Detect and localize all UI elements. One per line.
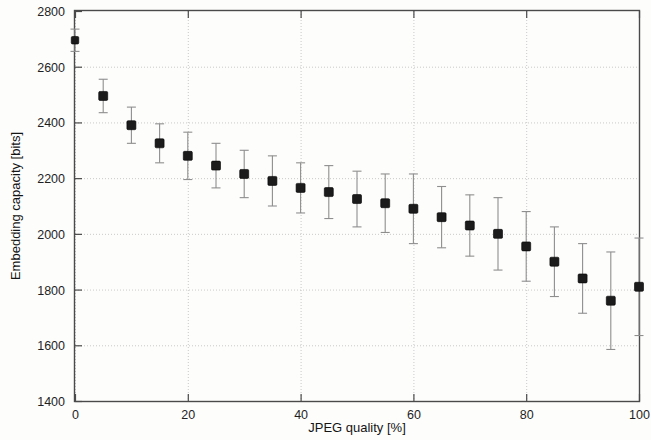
data-point-marker — [71, 37, 79, 45]
x-tick-label: 60 — [407, 408, 421, 422]
data-point-marker — [127, 121, 136, 130]
data-point-marker — [522, 242, 531, 251]
data-point-group — [550, 227, 559, 297]
data-point-group — [155, 124, 164, 163]
y-tick-label: 2400 — [37, 116, 65, 130]
data-point-marker — [268, 176, 277, 185]
data-point-group — [578, 244, 587, 314]
y-axis-title: Embedding capacity [bits] — [8, 132, 23, 280]
data-point-marker — [353, 195, 362, 204]
x-tick-label: 80 — [520, 408, 534, 422]
data-point-marker — [465, 221, 474, 230]
data-point-group — [296, 163, 305, 213]
x-axis-title: JPEG quality [%] — [308, 420, 406, 435]
x-tick-label: 0 — [72, 408, 79, 422]
data-point-marker — [606, 296, 615, 305]
figure-container: 1400160018002000220024002600280002040608… — [0, 0, 651, 440]
data-point-group — [465, 195, 474, 256]
data-point-marker — [635, 282, 644, 291]
data-point-group — [240, 150, 249, 197]
data-point-marker — [212, 161, 221, 170]
data-point-group — [437, 187, 446, 248]
data-point-marker — [324, 188, 333, 197]
data-point-marker — [240, 169, 249, 178]
data-point-marker — [409, 204, 418, 213]
data-point-group — [71, 29, 80, 51]
data-point-group — [606, 252, 615, 350]
data-point-group — [183, 132, 192, 179]
data-point-marker — [578, 274, 587, 283]
y-tick-label: 1800 — [37, 284, 65, 298]
data-point-group — [635, 238, 644, 335]
y-tick-label: 1400 — [37, 395, 65, 409]
data-point-group — [212, 143, 221, 188]
y-tick-label: 1600 — [37, 339, 65, 353]
y-tick-label: 2200 — [37, 172, 65, 186]
data-point-marker — [550, 257, 559, 266]
data-point-group — [324, 166, 333, 219]
x-tick-label: 20 — [181, 408, 195, 422]
y-tick-label: 2800 — [37, 5, 65, 19]
data-point-marker — [296, 183, 305, 192]
x-tick-label: 100 — [629, 408, 650, 422]
data-point-group — [494, 198, 503, 270]
data-point-group — [522, 212, 531, 282]
data-point-marker — [183, 151, 192, 160]
data-point-marker — [155, 139, 164, 148]
data-point-group — [127, 107, 136, 143]
data-point-group — [381, 174, 390, 233]
data-point-marker — [494, 229, 503, 238]
y-tick-label: 2000 — [37, 228, 65, 242]
data-series-embedding-capacity — [71, 29, 644, 349]
data-point-marker — [99, 91, 108, 100]
data-point-group — [268, 156, 277, 206]
data-point-marker — [381, 199, 390, 208]
y-tick-label: 2600 — [37, 61, 65, 75]
scatter-plot: 1400160018002000220024002600280002040608… — [0, 0, 651, 440]
data-point-group — [409, 174, 418, 244]
data-point-group — [353, 171, 362, 227]
data-point-marker — [437, 213, 446, 222]
x-tick-label: 40 — [294, 408, 308, 422]
data-point-group — [99, 79, 108, 112]
